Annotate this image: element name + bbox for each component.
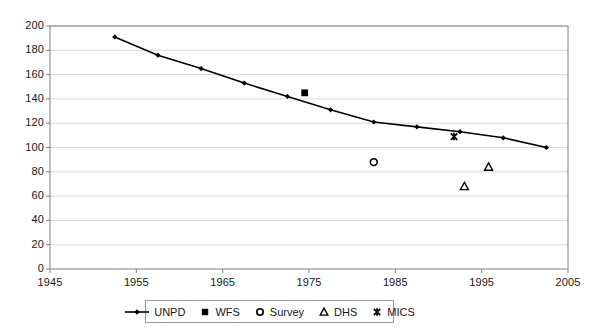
legend-item-wfs[interactable]: WFS [192, 306, 246, 318]
y-axis-tick-label: 180 [8, 43, 44, 55]
legend-item-dhs[interactable]: DHS [311, 306, 364, 318]
x-axis-tick-label: 1975 [287, 276, 331, 288]
legend-marker-line-diamond-icon [124, 306, 150, 318]
x-axis-tick-label: 1965 [201, 276, 245, 288]
y-axis-tick-label: 40 [8, 213, 44, 225]
series-wfs [301, 89, 308, 96]
y-axis-tick-label: 120 [8, 116, 44, 128]
x-axis-tick-label: 1955 [114, 276, 158, 288]
y-axis-tick-label: 200 [8, 19, 44, 31]
series-mics [451, 133, 457, 140]
y-axis-tick-label: 20 [8, 238, 44, 250]
axis-ticks [46, 26, 568, 273]
legend-item-mics[interactable]: MICS [364, 306, 422, 318]
y-axis-tick-label: 60 [8, 189, 44, 201]
legend-marker-cross-star-icon [371, 306, 383, 318]
x-axis-tick-label: 1995 [460, 276, 504, 288]
series-dhs [460, 163, 492, 190]
x-axis-tick-label: 1985 [373, 276, 417, 288]
y-axis-tick-label: 0 [8, 262, 44, 274]
legend-marker-open-circle-icon [254, 306, 266, 318]
legend-marker-filled-square-icon [199, 306, 211, 318]
legend-item-label: DHS [334, 306, 357, 318]
y-axis-tick-label: 100 [8, 141, 44, 153]
legend-item-label: Survey [270, 306, 304, 318]
series-unpd [112, 34, 549, 150]
legend-item-label: MICS [387, 306, 415, 318]
y-axis-tick-label: 160 [8, 68, 44, 80]
x-axis-tick-label: 2005 [546, 276, 590, 288]
series-survey [370, 159, 377, 166]
legend-marker-open-triangle-icon [318, 306, 330, 318]
legend-item-unpd[interactable]: UNPD [117, 306, 192, 318]
chart-container: 020406080100120140160180200 194519551965… [0, 0, 601, 331]
x-axis-tick-label: 1945 [28, 276, 72, 288]
legend-item-survey[interactable]: Survey [247, 306, 311, 318]
chart-legend: UNPDWFSSurveyDHSMICS [145, 300, 394, 323]
y-axis-tick-label: 80 [8, 165, 44, 177]
legend-item-label: WFS [215, 306, 239, 318]
y-axis-tick-label: 140 [8, 92, 44, 104]
legend-item-label: UNPD [154, 306, 185, 318]
